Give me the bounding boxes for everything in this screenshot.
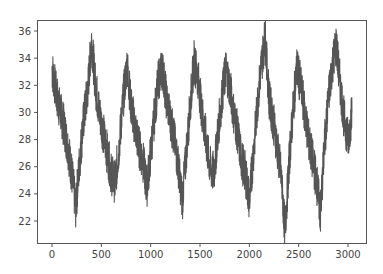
x-tick-label: 1000 <box>138 249 163 260</box>
x-tick-label: 2500 <box>286 249 311 260</box>
y-tick-label: 28 <box>18 134 31 145</box>
x-tick-label: 0 <box>49 249 55 260</box>
x-axis: 050010001500200025003000 <box>49 244 361 261</box>
line-chart: 2224262830323436 05001000150020002500300… <box>0 0 383 274</box>
x-tick-label: 500 <box>92 249 111 260</box>
x-tick-label: 1500 <box>187 249 212 260</box>
y-tick-label: 32 <box>18 80 31 91</box>
y-axis: 2224262830323436 <box>18 26 37 227</box>
y-tick-label: 36 <box>18 26 31 37</box>
x-tick-label: 3000 <box>335 249 360 260</box>
y-tick-label: 22 <box>18 216 31 227</box>
y-tick-label: 30 <box>18 107 31 118</box>
y-tick-label: 34 <box>18 53 31 64</box>
y-tick-label: 26 <box>18 161 31 172</box>
y-tick-label: 24 <box>18 188 31 199</box>
x-tick-label: 2000 <box>237 249 262 260</box>
